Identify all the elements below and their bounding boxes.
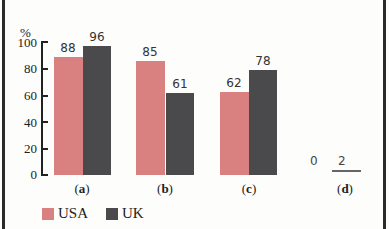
- y-tick-40: [41, 121, 48, 123]
- bar-usa-c: [220, 92, 249, 175]
- bar-uk-b: [166, 93, 194, 175]
- category-label-c: (c): [234, 181, 264, 197]
- legend-item-uk: UK: [106, 205, 144, 222]
- category-label-a: (a): [67, 181, 97, 197]
- value-label-uk-b: 61: [160, 77, 200, 91]
- value-label-uk-c: 78: [243, 54, 283, 68]
- y-tick-label: 100: [5, 36, 37, 50]
- y-tick-100: [41, 41, 48, 43]
- value-label-usa-d: 0: [310, 154, 318, 168]
- y-tick-label: 20: [5, 142, 37, 156]
- y-tick-label: 0: [5, 168, 37, 182]
- usa-swatch-icon: [42, 208, 54, 220]
- value-label-uk-a: 96: [77, 30, 117, 44]
- value-label-usa-c: 62: [214, 76, 254, 90]
- legend-item-usa: USA: [42, 205, 88, 222]
- legend-label-uk: UK: [122, 205, 144, 222]
- legend: USA UK: [42, 205, 162, 222]
- category-label-b: (b): [150, 181, 180, 197]
- value-label-uk-d: 2: [338, 154, 346, 168]
- bar-uk-a: [83, 46, 111, 175]
- legend-label-usa: USA: [58, 205, 88, 222]
- bar-usa-a: [54, 57, 83, 175]
- y-tick-label: 40: [5, 116, 37, 130]
- y-axis-line: [41, 41, 43, 176]
- y-tick-0: [41, 174, 48, 176]
- y-tick-label: 60: [5, 89, 37, 103]
- left-frame-border: [2, 0, 5, 229]
- y-tick-80: [41, 68, 48, 70]
- value-label-usa-b: 85: [130, 45, 170, 59]
- uk-swatch-icon: [106, 208, 118, 220]
- y-tick-label: 80: [5, 62, 37, 76]
- y-tick-60: [41, 95, 48, 97]
- bar-uk-d: [332, 170, 361, 172]
- right-frame-border: [383, 0, 386, 229]
- y-tick-20: [41, 148, 48, 150]
- category-label-d: (d): [330, 181, 360, 197]
